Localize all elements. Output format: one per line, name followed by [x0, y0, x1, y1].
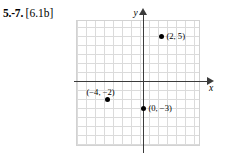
data-point-label: (2, 5): [166, 31, 185, 41]
exercise-objective-label: [6.1b]: [26, 7, 54, 19]
exercise-header: 5.-7.[6.1b]: [3, 7, 53, 20]
y-axis-arrow-icon: [139, 8, 147, 15]
coordinate-graph: x y (2, 5) (−4, −2) (0, −3): [76, 20, 200, 146]
exercise-figure: 5.-7.[6.1b] x y (2, 5) (−4, −2) (0, −3): [0, 0, 226, 154]
y-axis-line: [143, 13, 145, 153]
exercise-range-label: 5.-7.: [3, 7, 23, 19]
data-point-dot: [159, 34, 164, 39]
data-point-dot: [105, 97, 110, 102]
data-point-dot: [141, 106, 146, 111]
data-point-label: (0, −3): [148, 103, 171, 113]
x-axis-label: x: [209, 83, 213, 93]
data-point-label: (−4, −2): [86, 87, 114, 97]
y-axis-label: y: [134, 8, 138, 18]
x-axis-line: [74, 81, 209, 83]
